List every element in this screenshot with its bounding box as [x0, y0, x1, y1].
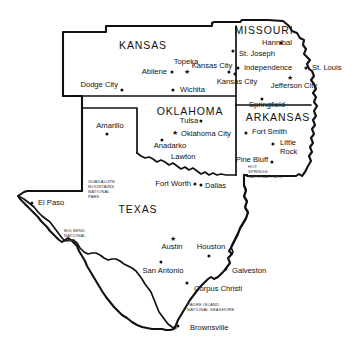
city-marker-dot — [176, 324, 179, 327]
national-park-label: PADRE ISLANDNATIONAL SEASHORE — [187, 303, 234, 313]
city-marker-dot — [207, 254, 210, 257]
state-label-texas: TEXAS — [119, 203, 158, 215]
city-label: Rock — [280, 148, 297, 156]
city-marker-dot — [244, 131, 247, 134]
city-marker-dot — [231, 49, 234, 52]
city-marker-dot — [120, 88, 123, 91]
park-label-line: PARK — [88, 195, 115, 200]
city-label: Houston — [197, 243, 225, 251]
city-label: Tulsa — [180, 117, 198, 125]
city-marker-dot — [236, 66, 239, 69]
map-labels: KANSASMISSOURIOKLAHOMAARKANSASTEXASDodge… — [0, 0, 358, 349]
city-label: Oklahoma City — [181, 130, 231, 138]
city-label: St. Louis — [312, 64, 342, 72]
national-park-label: GUADALUPEMOUNTAINSNATIONALPARK — [88, 180, 115, 200]
city-label: Corpus Christi — [194, 285, 242, 293]
city-marker-dot — [193, 182, 196, 185]
city-marker-dot — [233, 72, 236, 75]
city-label: Hannibal — [262, 39, 292, 47]
capital-marker-star: ★ — [172, 129, 178, 136]
city-label: Fort Smith — [252, 128, 287, 136]
city-marker-dot — [30, 201, 33, 204]
city-marker-dot — [170, 70, 173, 73]
city-label: Anadarko — [154, 142, 187, 150]
state-label-kansas: KANSAS — [119, 39, 167, 51]
city-marker-dot — [105, 132, 108, 135]
city-marker-dot — [271, 142, 274, 145]
city-label: Kansas City — [217, 78, 258, 86]
city-marker-dot — [304, 66, 307, 69]
city-label: El Paso — [38, 199, 64, 207]
city-label: Dallas — [205, 182, 226, 190]
city-marker-dot — [199, 119, 202, 122]
city-marker-dot — [171, 88, 174, 91]
city-label: Galveston — [232, 267, 266, 275]
state-map: KANSASMISSOURIOKLAHOMAARKANSASTEXASDodge… — [0, 0, 358, 349]
city-label: San Antonio — [143, 267, 184, 275]
state-label-missouri: MISSOURI — [234, 24, 293, 36]
city-label: Springfield — [249, 101, 285, 109]
city-marker-dot — [159, 260, 162, 263]
city-label: Independence — [244, 64, 292, 72]
park-label-line: NATIONAL PARK — [248, 174, 283, 179]
city-marker-dot — [199, 183, 202, 186]
city-label: St. Joseph — [239, 50, 275, 58]
city-label: Amarillo — [96, 122, 123, 130]
national-park-label: HOTSPRINGSNATIONAL PARK — [248, 165, 283, 180]
city-label: Wichita — [180, 86, 205, 94]
park-label-line: NATIONAL SEASHORE — [187, 308, 234, 313]
city-marker-dot — [224, 267, 227, 270]
city-label: Jefferson City — [271, 82, 317, 90]
city-label: Fort Worth — [155, 180, 191, 188]
city-marker-dot — [185, 281, 188, 284]
city-label: Abilene — [142, 68, 167, 76]
city-label: Brownsville — [190, 324, 228, 332]
city-label: Austin — [161, 243, 182, 251]
national-park-label: BIG BENDNATIONALPARK — [64, 229, 86, 244]
city-label: Lawton — [171, 153, 196, 161]
park-label-line: PARK — [64, 238, 86, 243]
city-label: Dodge City — [80, 81, 118, 89]
state-label-arkansas: ARKANSAS — [246, 111, 310, 123]
capital-marker-star: ★ — [184, 68, 190, 75]
city-label: Kansas City — [192, 62, 233, 70]
city-marker-dot — [227, 70, 230, 73]
city-marker-dot — [270, 160, 273, 163]
capital-marker-star: ★ — [170, 235, 176, 242]
capital-marker-star: ★ — [287, 74, 293, 81]
